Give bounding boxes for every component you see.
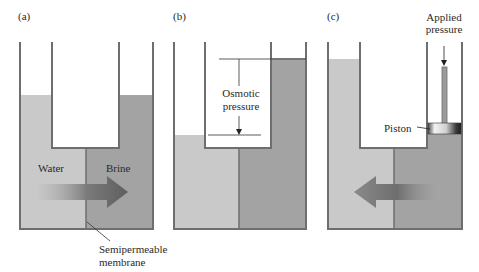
osmosis-diagram: (a) Water Brine Semipermeable membrane (… (0, 0, 479, 272)
osmotic-label-line1: Osmotic (222, 87, 259, 99)
panel-b-label: (b) (173, 10, 186, 23)
membrane-label-line1: Semipermeable (99, 243, 168, 255)
water-region (174, 135, 239, 229)
applied-label-line1: Applied (426, 11, 462, 23)
membrane-label-line2: membrane (99, 256, 146, 268)
panel-c: (c) Applied pressure Piston (327, 10, 462, 229)
arrow-down-icon (236, 129, 242, 135)
panel-b: (b) Osmotic pressure (173, 10, 306, 229)
osmotic-label-line2: pressure (223, 100, 260, 112)
inner-u-wall (52, 42, 119, 148)
panel-c-label: (c) (327, 10, 340, 23)
brine-label: Brine (106, 162, 131, 174)
piston (428, 123, 461, 134)
brine-region (239, 58, 306, 229)
panel-a: (a) Water Brine Semipermeable membrane (18, 10, 168, 268)
piston-label: Piston (384, 122, 412, 134)
arrow-down-icon (441, 60, 447, 66)
panel-a-label: (a) (18, 10, 31, 23)
water-label: Water (38, 162, 64, 174)
piston-rod (442, 67, 447, 124)
applied-label-line2: pressure (426, 23, 463, 35)
